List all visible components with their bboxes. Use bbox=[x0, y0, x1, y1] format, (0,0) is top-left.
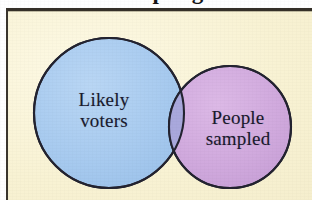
venn-label-people-sampled: People sampled bbox=[186, 107, 290, 149]
venn-label-likely-voters: Likely voters bbox=[50, 89, 158, 131]
venn-label-people-sampled-line1: People bbox=[186, 107, 290, 128]
venn-label-likely-voters-line1: Likely bbox=[50, 89, 158, 110]
figure-frame: Likely voters People sampled bbox=[6, 8, 312, 200]
cropped-title-sliver: Sampling bbox=[0, 0, 312, 8]
figure-container: Sampling bbox=[0, 0, 312, 200]
venn-label-likely-voters-line2: voters bbox=[50, 110, 158, 131]
venn-label-people-sampled-line2: sampled bbox=[186, 128, 290, 149]
figure-title: Sampling bbox=[0, 0, 312, 5]
venn-diagram: Likely voters People sampled bbox=[8, 11, 312, 200]
